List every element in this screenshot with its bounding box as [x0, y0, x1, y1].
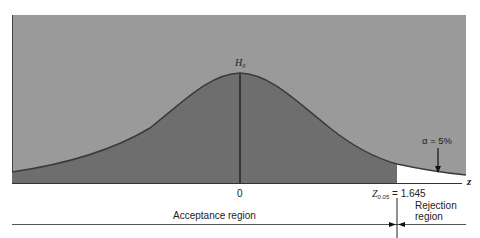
axis-label: z — [467, 176, 471, 187]
critical-value-label: Z0.05 = 1.645 — [372, 189, 426, 200]
center-tick-label: 0 — [237, 189, 243, 199]
alpha-label: α = 5% — [422, 136, 452, 146]
diagram-canvas — [0, 0, 480, 238]
rejection-region-label-2: region — [415, 212, 443, 222]
right-arrow-icon — [398, 222, 405, 227]
left-arrow-icon — [389, 222, 396, 227]
rejection-region-label-1: Rejection — [415, 201, 457, 211]
hypothesis-label: H0 — [235, 58, 245, 69]
acceptance-region-label: Acceptance region — [173, 211, 256, 221]
